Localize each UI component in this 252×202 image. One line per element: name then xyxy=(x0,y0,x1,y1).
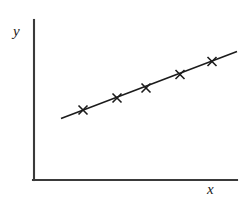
data-point-markers xyxy=(79,57,217,115)
scatter-plot-figure: y x xyxy=(0,0,252,202)
data-point-marker xyxy=(79,106,88,115)
x-axis-label: x xyxy=(207,182,214,197)
y-axis-label: y xyxy=(13,24,20,39)
plot-canvas xyxy=(0,0,252,202)
